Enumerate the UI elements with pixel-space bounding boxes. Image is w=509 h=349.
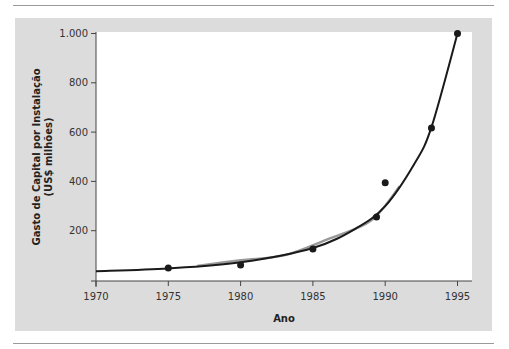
- x-axis-title: Ano: [273, 313, 295, 324]
- y-axis-title: Gasto de Capital por Instalação (US$ mil…: [31, 68, 54, 245]
- data-point: [382, 179, 389, 186]
- y-axis: 2004006008001.000: [59, 28, 96, 287]
- x-tick-label: 1980: [228, 291, 253, 302]
- data-point: [428, 124, 435, 131]
- x-axis: 197019751980198519901995: [83, 281, 472, 302]
- y-axis-title-line2: (US$ milhões): [43, 118, 54, 197]
- x-tick-label: 1970: [83, 291, 108, 302]
- y-tick-label: 800: [69, 77, 88, 88]
- data-point: [165, 264, 172, 271]
- x-tick-label: 1995: [445, 291, 470, 302]
- y-tick-label: 1.000: [59, 28, 88, 39]
- y-tick-label: 600: [69, 127, 88, 138]
- x-tick-label: 1975: [156, 291, 181, 302]
- y-tick-label: 400: [69, 176, 88, 187]
- x-tick-label: 1990: [372, 291, 397, 302]
- y-axis-title-line1: Gasto de Capital por Instalação: [31, 68, 42, 245]
- data-point: [237, 261, 244, 268]
- data-point: [454, 30, 461, 37]
- y-tick-label: 200: [69, 225, 88, 236]
- plot-area: [96, 32, 472, 281]
- data-point: [309, 245, 316, 252]
- x-tick-label: 1985: [300, 291, 325, 302]
- data-point: [373, 213, 380, 220]
- chart: 2004006008001.000 1970197519801985199019…: [0, 0, 509, 349]
